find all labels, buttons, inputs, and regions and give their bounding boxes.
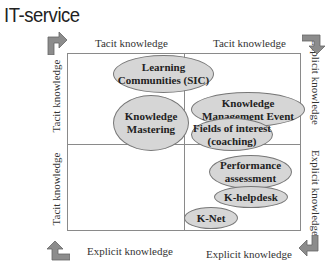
ellipse-text-line: Fields of interest <box>193 122 271 135</box>
top-left-axis-label: Tacit knowledge <box>95 37 168 49</box>
bottom-right-axis-label: Explicit knowledge <box>206 248 292 260</box>
ellipse-text-line: Communities (SIC) <box>118 74 209 87</box>
left-upper-axis-label: Tacit knowledge <box>50 60 62 133</box>
ellipse-fields-of-interest: Fields of interest(coaching) <box>191 118 273 151</box>
ellipse-k-helpdesk: K-helpdesk <box>214 186 288 208</box>
right-lower-axis-label: Explicit knowledge <box>310 150 322 236</box>
top-right-axis-label: Tacit knowledge <box>213 37 286 49</box>
bottom-left-axis-label: Explicit knowledge <box>87 245 173 257</box>
ellipse-text-line: K-Net <box>197 212 226 225</box>
turn-up-arrow-icon <box>46 240 70 262</box>
ellipse-text-line: assessment <box>220 172 281 185</box>
ellipse-k-net: K-Net <box>184 207 238 229</box>
ellipse-text-line: Learning <box>118 61 209 74</box>
left-lower-axis-label: Tacit knowledge <box>50 153 62 226</box>
ellipse-performance-assessment: Performanceassessment <box>209 155 292 189</box>
ellipse-text-line: K-helpdesk <box>224 191 278 204</box>
turn-down-arrow-icon <box>302 33 326 55</box>
ellipse-text-line: (coaching) <box>193 135 271 148</box>
ellipse-knowledge-mastering: KnowledgeMastering <box>113 95 189 151</box>
ellipse-text-line: Knowledge <box>125 110 178 123</box>
turn-left-arrow-icon <box>296 235 320 257</box>
ellipse-learning-communities: LearningCommunities (SIC) <box>113 55 214 93</box>
turn-right-arrow-icon <box>46 31 68 55</box>
ellipse-text-line: Knowledge <box>202 97 294 110</box>
ellipse-text-line: Mastering <box>125 123 178 136</box>
ellipse-text-line: Performance <box>220 159 281 172</box>
diagram-title: IT-service <box>4 3 80 27</box>
